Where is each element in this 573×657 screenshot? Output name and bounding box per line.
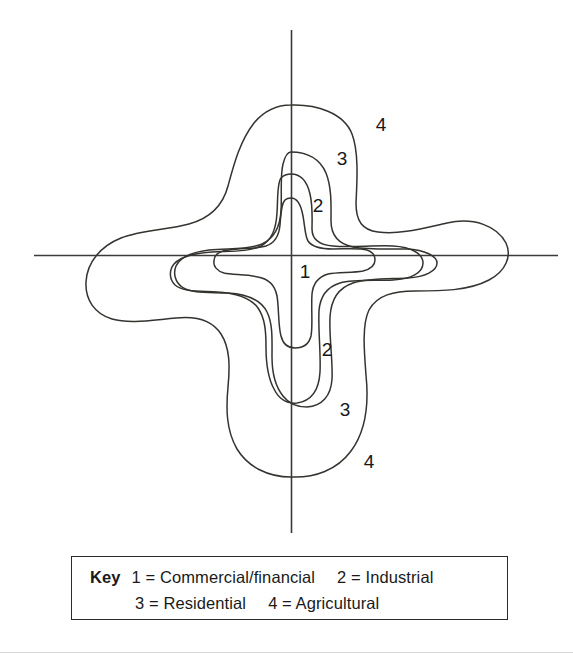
- key-heading: Key: [90, 564, 121, 590]
- zone-label-3-bottom: 3: [340, 399, 351, 420]
- zone-curve-2-industrial: [170, 174, 423, 403]
- zone-label-4-top: 4: [376, 114, 387, 135]
- key-entry-2: 2 = Industrial: [337, 564, 433, 590]
- zone-label-2-top: 2: [313, 195, 324, 216]
- zone-label-1: 1: [300, 261, 311, 282]
- zone-label-2-bottom: 2: [322, 339, 333, 360]
- zone-curve-4-agricultural: [86, 105, 508, 477]
- key-legend-box: Key 1 = Commercial/financial 2 = Industr…: [71, 556, 508, 620]
- key-entry-3: 3 = Residential: [135, 590, 246, 616]
- key-row-1: Key 1 = Commercial/financial 2 = Industr…: [90, 564, 497, 590]
- key-legend-content: Key 1 = Commercial/financial 2 = Industr…: [72, 557, 507, 619]
- zone-curve-1-commercial-financial: [214, 198, 375, 348]
- key-row-2: 3 = Residential 4 = Agricultural: [90, 590, 497, 616]
- bottom-divider: [0, 652, 573, 653]
- zone-diagram: 1 2 2 3 3 4 4: [0, 0, 573, 545]
- zone-label-4-bottom: 4: [364, 451, 375, 472]
- zone-label-3-top: 3: [337, 148, 348, 169]
- key-entry-4: 4 = Agricultural: [268, 590, 379, 616]
- figure-root: 1 2 2 3 3 4 4 Key 1 = Commercial/financi…: [0, 0, 573, 657]
- key-entry-1: 1 = Commercial/financial: [132, 564, 316, 590]
